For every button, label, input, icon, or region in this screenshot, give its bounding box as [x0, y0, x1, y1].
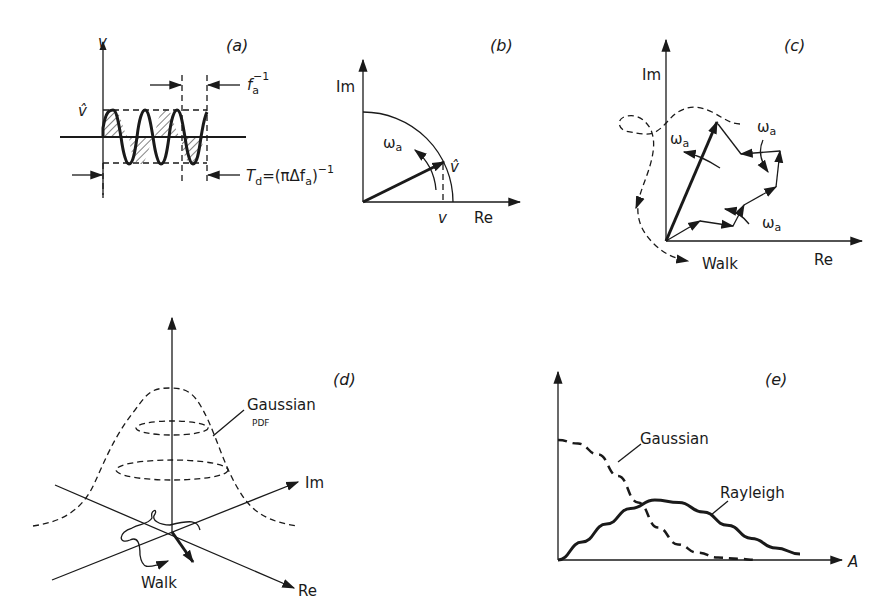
resultant-phasor-d: [172, 532, 193, 562]
rayleigh-label-e: Rayleigh: [720, 484, 785, 502]
re-label-d: Re: [298, 582, 317, 600]
im-label-c: Im: [642, 66, 661, 84]
walk-label-c: Walk: [702, 255, 738, 273]
panel-e: (e) A Gaussian Rayleigh: [558, 370, 858, 571]
panel-d-label: (d): [333, 370, 356, 389]
duration-label: Td=(πΔfa)−1: [246, 163, 334, 188]
vector-label-b: v̂: [450, 158, 460, 176]
omega-label-b: ωa: [383, 134, 402, 154]
v-axis-label: v: [98, 33, 108, 51]
gaussian-label-e: Gaussian: [640, 430, 709, 448]
im-label-d: Im: [305, 474, 324, 492]
a-axis-label: A: [847, 553, 858, 571]
panel-b: (b) Im Re ωa v̂ v: [336, 36, 520, 227]
re-label-b: Re: [474, 209, 493, 227]
panel-a-label: (a): [226, 36, 248, 55]
re-label-c: Re: [814, 251, 833, 269]
projection-label-b: v: [438, 209, 448, 227]
panel-d: (d) Re Im Gaussian PDF Walk: [33, 318, 356, 600]
panel-a: (a) v v̂ fa−1 Td=(πΔfa)−1: [60, 33, 334, 198]
omega-label-c2: ωa: [757, 118, 776, 138]
walk-direction-arrow: [636, 198, 640, 208]
pdf-label-d: PDF: [252, 418, 270, 428]
walk-label-d: Walk: [141, 574, 177, 592]
im-label-b: Im: [336, 78, 355, 96]
panel-e-label: (e): [765, 370, 787, 389]
panel-c: (c) Im Re ωa ωa ωa Walk: [619, 36, 862, 273]
gaussian-leader-e: [618, 444, 641, 462]
phasor-vector: [363, 162, 444, 202]
phasor-diagram-figure: (a) v v̂ fa−1 Td=(πΔfa)−1 (b) Im Re: [0, 0, 895, 615]
rotation-arrow-c3: [725, 209, 749, 224]
rayleigh-leader-e: [711, 501, 728, 515]
im-axis-d: [52, 482, 298, 580]
omega-label-c1: ωa: [670, 130, 689, 150]
gaussian-leader-line: [213, 410, 244, 436]
panel-c-label: (c): [784, 36, 805, 55]
amplitude-label: v̂: [78, 102, 88, 120]
gaussian-label-d: Gaussian: [247, 396, 316, 414]
period-label: fa−1: [247, 70, 269, 97]
rotation-arrow-c2: [760, 140, 768, 172]
omega-label-c3: ωa: [762, 214, 781, 234]
rayleigh-curve: [558, 500, 800, 560]
panel-b-label: (b): [490, 36, 513, 55]
unit-circle-arc: [363, 112, 453, 202]
